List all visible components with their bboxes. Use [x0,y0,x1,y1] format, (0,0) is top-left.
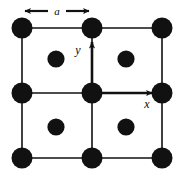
center-atom [47,50,64,67]
corner-atom [12,18,33,39]
origin-atom [82,83,103,104]
corner-atom [152,18,173,39]
x-axis-label: x [143,97,150,111]
coordinate-axes [92,42,152,93]
lattice-diagram-canvas: a y x [0,0,184,178]
center-atom [47,118,64,135]
lattice-diagram-figure: a y x [0,0,184,178]
corner-atom [82,148,103,169]
center-atom [117,50,134,67]
corner-atom [12,83,33,104]
center-atom [117,118,134,135]
corner-atom [152,83,173,104]
y-axis-label: y [74,43,81,57]
corner-atom [12,148,33,169]
corner-atom [152,148,173,169]
lattice-constant-label: a [54,5,60,17]
corner-atom [82,18,103,39]
